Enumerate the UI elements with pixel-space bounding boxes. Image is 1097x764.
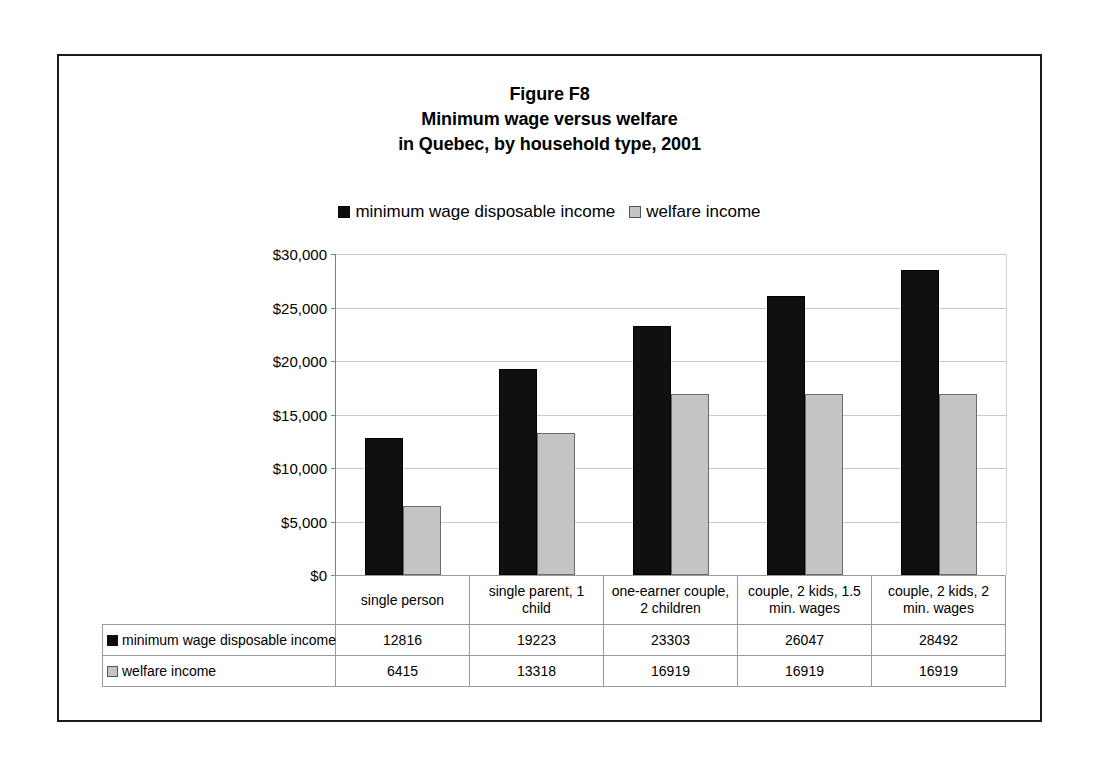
table-series-key: welfare income bbox=[103, 656, 336, 687]
table-category-header: couple, 2 kids, 1.5 min. wages bbox=[738, 576, 872, 625]
bar-1 bbox=[805, 394, 843, 575]
table-category-header: single person bbox=[336, 576, 470, 625]
black-square-icon bbox=[338, 206, 350, 218]
chart-title: Figure F8 Minimum wage versus welfare in… bbox=[59, 82, 1040, 157]
figure-frame: Figure F8 Minimum wage versus welfare in… bbox=[57, 54, 1042, 722]
table-category-header: couple, 2 kids, 2 min. wages bbox=[872, 576, 1006, 625]
bar-group bbox=[336, 254, 470, 575]
title-line-2: Minimum wage versus welfare bbox=[59, 107, 1040, 132]
table-cell: 13318 bbox=[470, 656, 604, 687]
bar-0 bbox=[365, 438, 403, 575]
legend-entry-minimum-wage: minimum wage disposable income bbox=[338, 202, 615, 222]
plot-area: $0$5,000$10,000$15,000$20,000$25,000$30,… bbox=[335, 254, 1006, 576]
table-cell: 12816 bbox=[336, 625, 470, 656]
y-axis-tick-label: $5,000 bbox=[281, 513, 327, 530]
table-series-label: minimum wage disposable income bbox=[122, 632, 336, 648]
plot-inner: $0$5,000$10,000$15,000$20,000$25,000$30,… bbox=[336, 254, 1006, 575]
table-row: minimum wage disposable income1281619223… bbox=[103, 625, 1006, 656]
table-category-header: one-earner couple, 2 children bbox=[604, 576, 738, 625]
bar-group bbox=[470, 254, 604, 575]
plot-right-edge bbox=[1006, 254, 1007, 575]
table-cell: 26047 bbox=[738, 625, 872, 656]
table-cell: 19223 bbox=[470, 625, 604, 656]
bar-group bbox=[872, 254, 1006, 575]
gray-square-icon bbox=[629, 206, 641, 218]
legend-entry-welfare: welfare income bbox=[629, 202, 760, 222]
table-cell: 16919 bbox=[872, 656, 1006, 687]
bar-0 bbox=[499, 369, 537, 575]
title-line-3: in Quebec, by household type, 2001 bbox=[59, 132, 1040, 157]
bar-1 bbox=[403, 506, 441, 575]
table-row-categories: single personsingle parent, 1 childone-e… bbox=[103, 576, 1006, 625]
y-axis-tick-label: $15,000 bbox=[273, 406, 327, 423]
legend-label-welfare: welfare income bbox=[646, 202, 760, 221]
y-axis-tick-label: $30,000 bbox=[273, 246, 327, 263]
table-cell: 6415 bbox=[336, 656, 470, 687]
bar-1 bbox=[537, 433, 575, 576]
table-cell: 16919 bbox=[604, 656, 738, 687]
bar-1 bbox=[671, 394, 709, 575]
y-axis-tick-label: $25,000 bbox=[273, 299, 327, 316]
table-series-key: minimum wage disposable income bbox=[103, 625, 336, 656]
y-axis-tick-label: $10,000 bbox=[273, 460, 327, 477]
table-row: welfare income641513318169191691916919 bbox=[103, 656, 1006, 687]
chart-legend: minimum wage disposable income welfare i… bbox=[59, 202, 1040, 222]
table-cell: 23303 bbox=[604, 625, 738, 656]
bar-0 bbox=[767, 296, 805, 575]
bar-0 bbox=[901, 270, 939, 575]
y-axis-tick-label: $20,000 bbox=[273, 353, 327, 370]
bar-group bbox=[604, 254, 738, 575]
table-category-header: single parent, 1 child bbox=[470, 576, 604, 625]
gray-square-icon bbox=[107, 666, 118, 677]
table-series-label: welfare income bbox=[122, 663, 216, 679]
legend-label-minimum-wage: minimum wage disposable income bbox=[355, 202, 615, 221]
bar-0 bbox=[633, 326, 671, 575]
black-square-icon bbox=[107, 635, 118, 646]
table-cell: 28492 bbox=[872, 625, 1006, 656]
title-line-1: Figure F8 bbox=[59, 82, 1040, 107]
table-cell: 16919 bbox=[738, 656, 872, 687]
table-corner-cell bbox=[103, 576, 336, 625]
bar-1 bbox=[939, 394, 977, 575]
bar-group bbox=[738, 254, 872, 575]
data-table: single personsingle parent, 1 childone-e… bbox=[102, 575, 1006, 687]
